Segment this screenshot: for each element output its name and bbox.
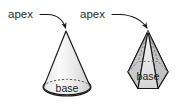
pyramid-figure: base <box>128 31 168 89</box>
figure-canvas: base base apex <box>0 0 183 104</box>
apex-label-left: apex <box>8 8 33 20</box>
cone-figure: base <box>43 31 91 96</box>
geometry-figure: base base apex <box>0 0 183 104</box>
apex-label-right: apex <box>80 8 105 20</box>
apex-arrow-left <box>40 15 66 29</box>
apex-arrow-right <box>112 15 147 29</box>
cone-base-label: base <box>56 82 79 94</box>
pyramid-base-label: base <box>137 70 160 82</box>
